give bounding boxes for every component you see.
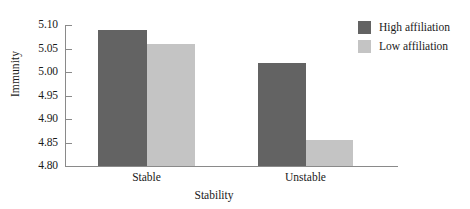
y-axis-tick-label: 4.90	[24, 113, 58, 125]
bar	[147, 44, 196, 166]
y-axis-tick	[65, 25, 72, 26]
bar	[98, 30, 147, 166]
y-axis-tick	[65, 96, 72, 97]
bar	[306, 140, 354, 166]
legend-item: High affiliation	[358, 19, 450, 36]
legend-item-label: Low affiliation	[379, 40, 448, 53]
y-axis-tick	[65, 166, 72, 167]
y-axis-tick-label: 4.95	[24, 90, 58, 102]
y-axis-tick	[65, 49, 72, 50]
y-axis-tick	[65, 143, 72, 144]
x-axis-tick-label: Stable	[98, 170, 195, 184]
legend-item: Low affiliation	[358, 38, 450, 55]
y-axis-tick	[65, 119, 72, 120]
x-axis-tick-label: Unstable	[258, 170, 353, 184]
y-axis-title: Immunity	[9, 29, 21, 119]
y-axis-tick-label: 5.00	[24, 66, 58, 78]
x-axis-title: Stability	[0, 189, 470, 201]
y-axis-tick	[65, 72, 72, 73]
y-axis-tick-label: 5.05	[24, 43, 58, 55]
y-axis-tick-label: 5.10	[24, 19, 58, 31]
y-axis-tick-label: 4.80	[24, 160, 58, 172]
bar	[258, 63, 306, 166]
bar-chart: 5.105.055.004.954.904.854.80 Immunity St…	[0, 0, 470, 209]
legend-item-label: High affiliation	[379, 21, 450, 34]
legend-swatch-icon	[358, 21, 371, 34]
legend-swatch-icon	[358, 40, 371, 53]
y-axis-tick-label: 4.85	[24, 137, 58, 149]
x-axis-line	[65, 166, 398, 167]
chart-legend: High affiliationLow affiliation	[358, 19, 450, 57]
